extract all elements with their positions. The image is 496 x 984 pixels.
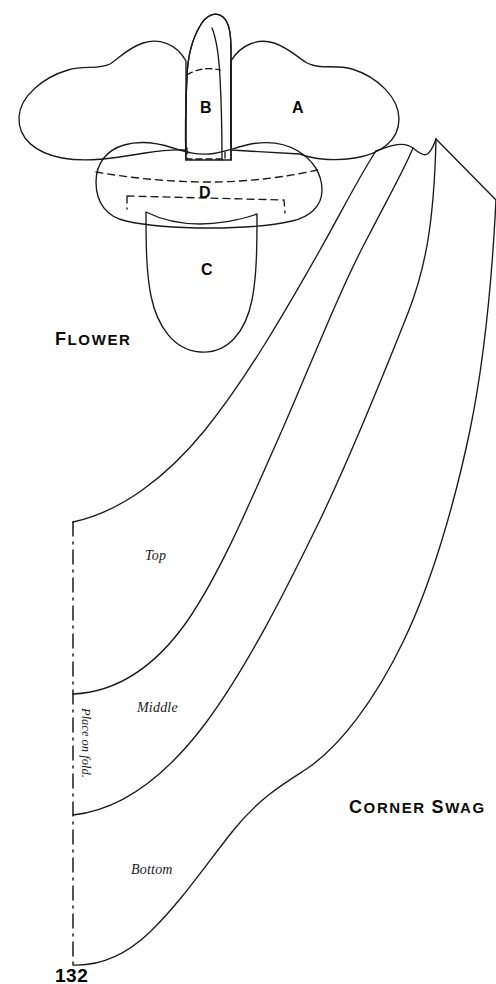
swag-middle-tier-lower-edge [73, 139, 436, 815]
corner-swag-title-initial-1: C [349, 797, 364, 817]
swag-right-outer-edge [436, 139, 496, 200]
swag-bottom-tier-lower-edge [73, 200, 496, 965]
swag-top-tier-lower-edge [73, 148, 413, 694]
swag-section-label-bottom: Bottom [131, 863, 173, 877]
corner-swag-title-rest-1: ORNER [364, 799, 426, 816]
flower-piece-label-c: C [201, 262, 213, 278]
flower-piece-b-left-edge [186, 14, 231, 160]
flower-piece-a-outline [19, 41, 186, 160]
corner-swag-title-initial-2: S [432, 797, 446, 817]
flower-piece-b-inner-right-edge [212, 28, 222, 160]
pattern-page: B A D C FLOWER Top Middle Bottom Place o… [0, 0, 496, 984]
flower-title-rest: LOWER [68, 331, 132, 348]
flower-piece-label-b: B [200, 100, 212, 116]
flower-piece-label-a: A [292, 100, 304, 116]
swag-section-label-top: Top [145, 549, 166, 563]
corner-swag-title: CORNER SWAG [349, 798, 486, 816]
flower-seam-line-d-top [96, 169, 322, 182]
flower-piece-a-outline-right [231, 41, 399, 159]
flower-piece-c-outline [146, 212, 257, 352]
page-number: 132 [55, 966, 88, 984]
corner-swag-title-rest-2: WAG [445, 799, 486, 816]
flower-title: FLOWER [55, 330, 131, 348]
flower-seam-line-b-top [187, 69, 220, 75]
swag-section-label-middle: Middle [137, 701, 178, 715]
flower-title-initial: F [55, 329, 68, 349]
pattern-line-art [0, 0, 496, 984]
flower-piece-label-d: D [199, 185, 211, 201]
flower-piece-b-outline [186, 14, 231, 160]
swag-place-on-fold-label: Place on fold. [80, 708, 93, 778]
